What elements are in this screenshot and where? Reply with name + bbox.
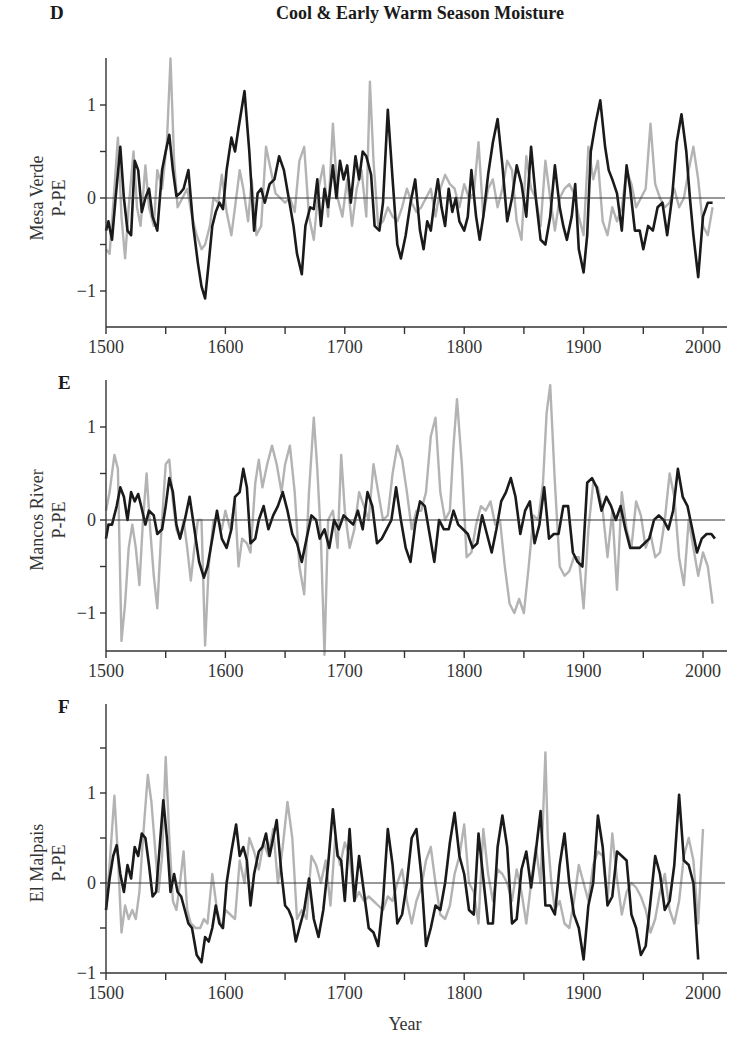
x-tick-label: 2000 (685, 661, 721, 681)
y-tick-label: 0 (87, 510, 96, 530)
x-tick-label: 1500 (88, 337, 124, 357)
x-tick-label: 1700 (327, 661, 363, 681)
y-tick-label: −1 (77, 603, 96, 623)
y-axis-label-site: Mesa Verde (27, 155, 47, 240)
x-tick-label: 1600 (207, 337, 243, 357)
x-tick-label: 1500 (88, 983, 124, 1003)
x-tick-label: 1500 (88, 661, 124, 681)
y-axis-label-site: Mancos River (27, 469, 47, 570)
x-axis-label: Year (388, 1014, 421, 1034)
x-tick-label: 2000 (685, 337, 721, 357)
y-tick-label: 1 (87, 95, 96, 115)
x-tick-label: 1700 (327, 983, 363, 1003)
panel-e-mancos-river: E Mancos River P-PE −1011500160017001800… (27, 372, 727, 681)
panel-letter: D (50, 2, 64, 23)
x-tick-label: 1900 (566, 983, 602, 1003)
x-tick-label: 1600 (207, 661, 243, 681)
x-tick-label: 1600 (207, 983, 243, 1003)
panel-letter: F (58, 696, 70, 717)
x-tick-label: 1900 (566, 661, 602, 681)
y-axis-label-site: El Malpais (27, 824, 47, 903)
y-axis-label: El Malpais P-PE (27, 824, 69, 903)
y-axis-label: Mancos River P-PE (27, 469, 69, 570)
figure: Cool & Early Warm Season Moisture D Mesa… (0, 0, 753, 1049)
x-tick-label: 1900 (566, 337, 602, 357)
y-tick-label: 0 (87, 873, 96, 893)
y-tick-label: −1 (77, 963, 96, 983)
y-axis-label-unit: P-PE (49, 501, 69, 538)
y-tick-label: −1 (77, 281, 96, 301)
plot-area: −101150016001700180019002000 (77, 704, 727, 1003)
panel-d-mesa-verde: D Mesa Verde P-PE −101150016001700180019… (27, 2, 727, 357)
plot-area: −101150016001700180019002000 (77, 58, 727, 357)
y-axis-label-unit: P-PE (49, 844, 69, 881)
figure-title: Cool & Early Warm Season Moisture (276, 3, 564, 23)
x-tick-label: 2000 (685, 983, 721, 1003)
y-tick-label: 1 (87, 417, 96, 437)
x-tick-label: 1700 (327, 337, 363, 357)
panel-f-el-malpais: F El Malpais P-PE −101150016001700180019… (27, 696, 727, 1034)
y-tick-label: 1 (87, 783, 96, 803)
x-tick-label: 1800 (446, 983, 482, 1003)
y-axis-label: Mesa Verde P-PE (27, 155, 69, 240)
panel-letter: E (58, 372, 71, 393)
plot-area: −101150016001700180019002000 (77, 380, 727, 681)
y-tick-label: 0 (87, 188, 96, 208)
x-tick-label: 1800 (446, 661, 482, 681)
x-tick-label: 1800 (446, 337, 482, 357)
y-axis-label-unit: P-PE (49, 179, 69, 216)
